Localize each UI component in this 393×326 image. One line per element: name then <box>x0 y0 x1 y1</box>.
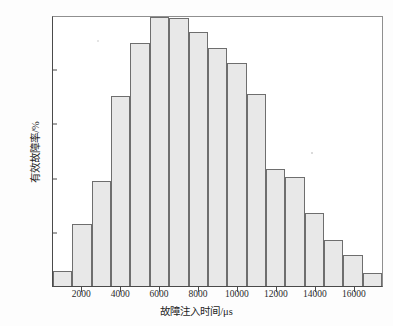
bar <box>343 255 362 286</box>
x-tick-mark <box>315 287 316 292</box>
x-tick-mark <box>81 287 82 292</box>
bar <box>285 177 304 286</box>
y-tick-mark <box>52 124 57 125</box>
bar <box>111 96 130 286</box>
bar <box>266 169 285 286</box>
plot-area <box>52 16 383 287</box>
x-tick-mark <box>354 287 355 292</box>
x-tick-mark <box>237 287 238 292</box>
y-tick-mark <box>52 70 57 71</box>
x-axis-title: 故障注入时间/μs <box>0 303 393 318</box>
bar <box>189 32 208 286</box>
bar <box>92 181 111 286</box>
bar <box>53 271 72 286</box>
paper-speck <box>311 152 313 154</box>
bar <box>227 63 246 286</box>
y-tick-mark <box>52 232 57 233</box>
x-tick-mark <box>198 287 199 292</box>
bar <box>208 48 227 286</box>
bar <box>305 213 324 286</box>
y-tick-mark <box>52 178 57 179</box>
y-axis-title: 有效故障率/% <box>27 121 42 183</box>
bar <box>247 94 266 286</box>
x-tick-mark <box>159 287 160 292</box>
x-tick-mark <box>276 287 277 292</box>
bar <box>324 240 343 286</box>
bar-series <box>53 17 382 286</box>
bar <box>130 43 149 286</box>
paper-speck <box>97 40 99 42</box>
bar <box>363 273 382 286</box>
figure-canvas: 0.0020.0040.0060.0080.00100.00 200040006… <box>0 0 393 326</box>
bar <box>169 18 188 286</box>
bar <box>150 17 169 286</box>
x-tick-mark <box>120 287 121 292</box>
bar <box>72 224 91 286</box>
